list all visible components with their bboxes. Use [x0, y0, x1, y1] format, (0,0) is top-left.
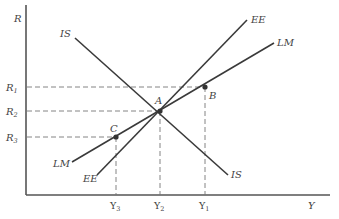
is-curve-label-top: IS — [59, 28, 71, 39]
point-b-marker — [202, 84, 207, 89]
r2-tick-label: R2 — [5, 106, 18, 119]
r3-tick-label: R3 — [5, 132, 18, 145]
ee-curve-label-bottom: EE — [82, 173, 98, 184]
y-axis-label: R — [13, 13, 22, 24]
point-c-label: C — [110, 123, 118, 134]
r1-tick-label: R1 — [5, 82, 18, 95]
lm-curve-label-bottom: LM — [52, 158, 71, 169]
point-a-label: A — [154, 95, 162, 106]
x-axis-label: Y — [308, 200, 316, 211]
lm-curve-label-top: LM — [276, 37, 295, 48]
point-c-marker — [113, 134, 118, 139]
ee-curve-label-top: EE — [250, 14, 266, 25]
y3-tick-label: Y3 — [109, 200, 120, 213]
ee-curve — [97, 20, 247, 175]
is-lm-ee-diagram: R Y IS IS LM LM EE EE A B C R1 R2 R3 Y3 … — [0, 0, 339, 219]
y2-tick-label: Y2 — [153, 200, 164, 213]
point-a-marker — [157, 108, 162, 113]
is-curve-label-bottom: IS — [230, 169, 242, 180]
y1-tick-label: Y1 — [198, 200, 209, 213]
point-b-label: B — [208, 90, 216, 101]
lm-curve — [72, 43, 274, 162]
